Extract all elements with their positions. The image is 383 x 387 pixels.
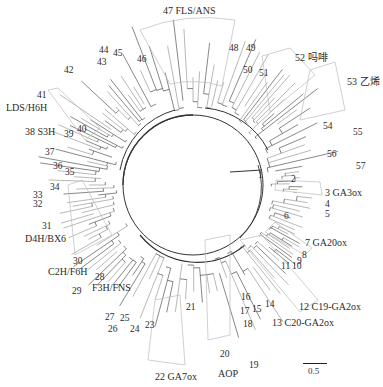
clade-label-20: 20 — [220, 350, 230, 360]
group-label: D4H/BX6 — [25, 234, 66, 244]
clade-label-10: 10 — [292, 262, 302, 272]
clade-label-22: 22 GA7ox — [155, 372, 197, 382]
group-label: LDS/H6H — [6, 103, 47, 113]
clade-label-53: 53 乙烯 — [347, 77, 380, 87]
clade-label-12: 12 C19-GA2ox — [299, 302, 361, 312]
clade-label-15: 15 — [252, 305, 262, 315]
clade-label-6: 6 — [284, 212, 289, 222]
inner-ring — [120, 108, 268, 262]
clade-label-3: 3 GA3ox — [325, 188, 362, 198]
clade-label-32: 32 — [33, 200, 43, 210]
clade-label-45: 45 — [113, 49, 123, 59]
clade-label-21: 21 — [186, 303, 196, 313]
clade-label-16: 16 — [241, 293, 251, 303]
clade-label-29: 29 — [72, 287, 82, 297]
clade-label-27: 27 — [105, 313, 115, 323]
clade-label-37: 37 — [45, 148, 55, 158]
clade-label-13: 13 C20-GA2ox — [272, 318, 334, 328]
group-label: AOP — [218, 369, 238, 379]
clade-label-44: 44 — [99, 46, 109, 56]
clade-label-25: 25 — [120, 314, 130, 324]
clade-label-33: 33 — [33, 191, 43, 201]
clade-label-51: 51 — [259, 69, 269, 79]
clade-label-2: 2 — [291, 175, 296, 185]
clade-label-52: 52 吗啡 — [295, 53, 328, 63]
clade-label-17: 17 — [240, 307, 250, 317]
group-label: C2H/F6H — [48, 267, 87, 277]
clade-label-19: 19 — [249, 361, 259, 371]
clade-label-46: 46 — [137, 55, 147, 65]
clade-label-56: 56 — [327, 150, 337, 160]
clade-label-26: 26 — [108, 325, 118, 335]
clade-label-49: 49 — [246, 44, 256, 54]
clade-label-8: 8 — [302, 251, 307, 261]
clade-label-55: 55 — [353, 128, 363, 138]
clade-label-5: 5 — [325, 210, 330, 220]
clade-label-11: 11 — [281, 262, 290, 272]
scale-bar-label: 0.5 — [308, 366, 319, 376]
clade-label-18: 18 — [243, 320, 253, 330]
clade-label-31: 31 — [42, 222, 52, 232]
clade-label-1: 1 — [258, 171, 263, 181]
scale-bar-line — [303, 363, 327, 364]
clade-label-24: 24 — [130, 325, 140, 335]
clade-label-48: 48 — [229, 44, 239, 54]
clade-boxes — [48, 18, 345, 365]
clade-label-40: 40 — [77, 125, 87, 135]
clade-label-43: 43 — [97, 58, 107, 68]
clade-label-42: 42 — [64, 66, 74, 76]
clade-label-57: 57 — [356, 162, 366, 172]
clade-label-34: 34 — [50, 183, 60, 193]
group-label: F3H/FNS — [92, 283, 131, 293]
clade-label-41: 41 — [37, 91, 47, 101]
clade-label-14: 14 — [265, 300, 275, 310]
scale-bar: 0.5 — [303, 363, 327, 375]
clade-label-35: 35 — [65, 168, 75, 178]
clade-label-23: 23 — [145, 321, 155, 331]
clade-label-38: 38 S3H — [25, 127, 55, 137]
clade-label-50: 50 — [243, 66, 253, 76]
clade-label-47: 47 FLS/ANS — [163, 6, 216, 16]
clade-label-36: 36 — [53, 162, 63, 172]
clade-label-7: 7 GA20ox — [305, 238, 347, 248]
clade-label-54: 54 — [323, 122, 333, 132]
clade-label-39: 39 — [64, 130, 74, 140]
